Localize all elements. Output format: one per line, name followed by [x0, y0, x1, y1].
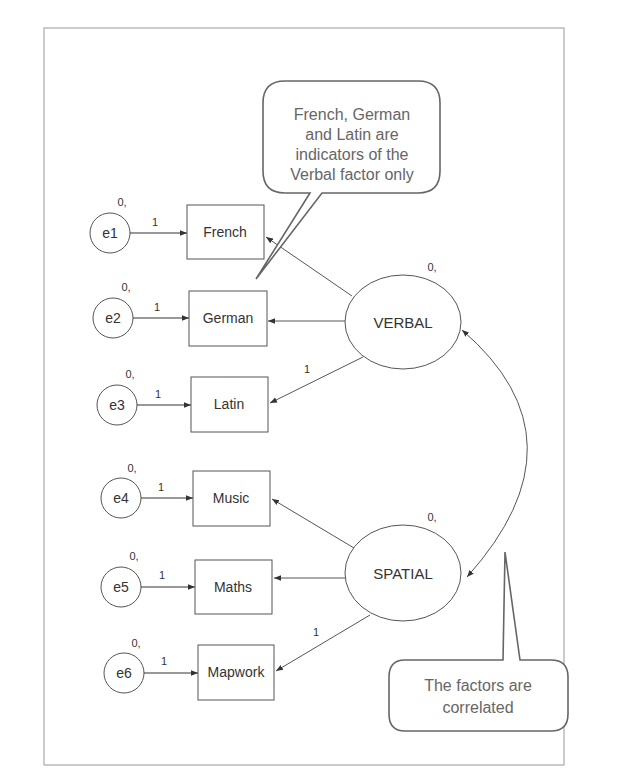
indicator-label: German	[203, 310, 254, 326]
error-mean-label: 0,	[121, 281, 130, 293]
error-mean-label: 0,	[117, 196, 126, 208]
indicator-mapwork: Mapwork	[198, 645, 274, 700]
error-label: e1	[102, 225, 118, 241]
indicator-label: Maths	[214, 579, 252, 595]
error-label: e2	[105, 310, 121, 326]
indicator-latin: Latin	[191, 377, 268, 432]
indicator-music: Music	[193, 471, 270, 526]
factor-label: SPATIAL	[373, 565, 432, 582]
indicator-label: Mapwork	[208, 664, 266, 680]
indicator-german: German	[189, 291, 267, 346]
factor-mean-label: 0,	[427, 261, 436, 273]
error-label: e3	[109, 397, 125, 413]
indicator-maths: Maths	[195, 560, 272, 614]
callout-line: correlated	[442, 699, 513, 716]
error-path-label: 1	[159, 569, 165, 581]
error-path-label: 1	[152, 216, 158, 228]
callout-line: French, German	[294, 106, 410, 123]
loading-label-mapwork: 1	[313, 626, 319, 638]
indicator-label: French	[203, 224, 247, 240]
error-mean-label: 0,	[131, 637, 140, 649]
indicator-french: French	[187, 205, 264, 259]
callout-line: The factors are	[424, 677, 532, 694]
indicator-label: Music	[213, 490, 250, 506]
factor-mean-label: 0,	[427, 511, 436, 523]
error-path-label: 1	[161, 655, 167, 667]
error-path-label: 1	[154, 301, 160, 313]
error-label: e5	[113, 579, 129, 595]
path-diagram: e1 0, 1 e2 0, 1 e3 0, 1 e4 0, 1 e5 0, 1 …	[0, 0, 619, 782]
error-mean-label: 0,	[127, 462, 136, 474]
callout-line: and Latin are	[305, 126, 399, 143]
error-label: e6	[116, 665, 132, 681]
error-mean-label: 0,	[125, 368, 134, 380]
callout-line: Verbal factor only	[290, 166, 414, 183]
loading-label-latin: 1	[304, 363, 310, 375]
error-label: e4	[113, 490, 129, 506]
indicator-label: Latin	[214, 396, 244, 412]
callout-line: indicators of the	[296, 146, 409, 163]
factor-label: VERBAL	[373, 314, 432, 331]
error-path-label: 1	[158, 481, 164, 493]
error-path-label: 1	[155, 388, 161, 400]
error-mean-label: 0,	[129, 550, 138, 562]
